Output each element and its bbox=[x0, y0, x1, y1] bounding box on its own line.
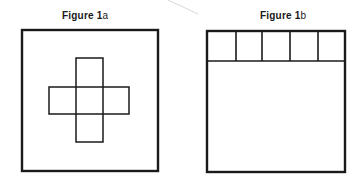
scan-artifact-line bbox=[168, 0, 198, 14]
figure-1a-frame bbox=[22, 30, 158, 171]
diagram-canvas bbox=[0, 0, 361, 183]
figure-1b-frame bbox=[207, 31, 345, 172]
cross-vertical-arm bbox=[76, 58, 103, 142]
top-row-dividers bbox=[236, 31, 318, 61]
cross-horizontal-arm bbox=[49, 87, 129, 114]
figure-1b bbox=[207, 31, 345, 172]
cross-shape bbox=[49, 58, 129, 142]
figure-1a bbox=[22, 30, 158, 171]
